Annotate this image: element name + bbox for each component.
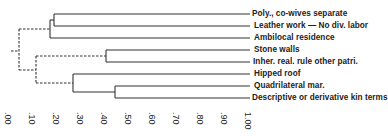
axis-tick-label: 1.00 [243,112,253,130]
axis-tick-label: .10 [27,112,37,125]
axis-tick-label: .20 [51,112,61,125]
axis-tick-label: .70 [171,112,181,125]
leaf-label: Poly., co-wives separate [252,9,347,19]
leaf-label: Quadrilateral mar. [254,81,325,91]
leaf-label: Stone walls [254,45,300,55]
leaf-label: Inher. real. rule other patri. [253,57,358,67]
axis-tick-label: .60 [147,112,157,125]
axis-tick-label: .50 [123,112,133,125]
leaf-label: Leather work — No div. labor [254,21,368,31]
axis-tick-label: .00 [3,112,13,125]
axis-tick-label: .80 [195,112,205,125]
leaf-label: Ambilocal residence [254,33,335,43]
axis-tick-label: .40 [99,112,109,125]
leaf-label: Descriptive or derivative kin terms [252,93,388,103]
axis-tick-label: .30 [75,112,85,125]
axis-tick-label: .90 [219,112,229,125]
leaf-label: Hipped roof [254,69,301,79]
